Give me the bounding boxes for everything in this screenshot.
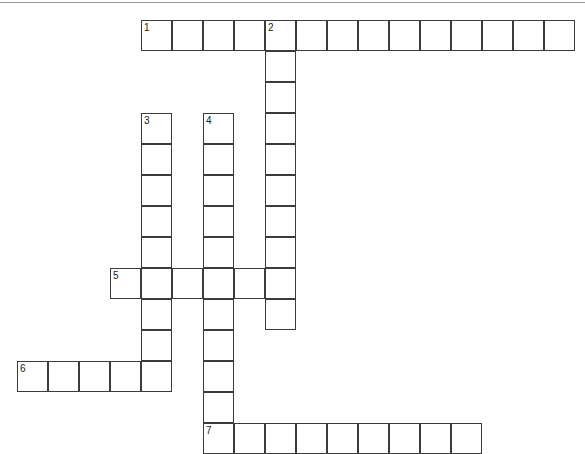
crossword-cell[interactable]	[17, 361, 48, 392]
crossword-cell[interactable]	[358, 423, 389, 454]
crossword-cell[interactable]	[296, 423, 327, 454]
crossword-cell[interactable]	[389, 20, 420, 51]
crossword-cell[interactable]	[451, 423, 482, 454]
crossword-cell[interactable]	[141, 206, 172, 237]
crossword-cell[interactable]	[141, 144, 172, 175]
crossword-cell[interactable]	[327, 20, 358, 51]
crossword-cell[interactable]	[141, 361, 172, 392]
crossword-cell[interactable]	[482, 20, 513, 51]
crossword-cell[interactable]	[203, 299, 234, 330]
crossword-cell[interactable]	[141, 299, 172, 330]
crossword-cell[interactable]	[265, 82, 296, 113]
crossword-cell[interactable]	[296, 20, 327, 51]
crossword-cell[interactable]	[203, 330, 234, 361]
crossword-cell[interactable]	[234, 423, 265, 454]
crossword-cell[interactable]	[48, 361, 79, 392]
crossword-cell[interactable]	[110, 361, 141, 392]
crossword-cell[interactable]	[79, 361, 110, 392]
crossword-cell[interactable]	[358, 20, 389, 51]
crossword-cell[interactable]	[389, 423, 420, 454]
crossword-cell[interactable]	[203, 113, 234, 144]
crossword-cell[interactable]	[110, 268, 141, 299]
crossword-cell[interactable]	[172, 20, 203, 51]
crossword-cell[interactable]	[265, 144, 296, 175]
crossword-cell[interactable]	[265, 268, 296, 299]
crossword-cell[interactable]	[265, 20, 296, 51]
crossword-cell[interactable]	[141, 237, 172, 268]
crossword-cell[interactable]	[203, 268, 234, 299]
crossword-cell[interactable]	[203, 392, 234, 423]
crossword-cell[interactable]	[172, 268, 203, 299]
crossword-cell[interactable]	[265, 237, 296, 268]
crossword-cell[interactable]	[203, 20, 234, 51]
crossword-cell[interactable]	[203, 206, 234, 237]
crossword-cell[interactable]	[327, 423, 358, 454]
crossword-cell[interactable]	[265, 113, 296, 144]
crossword-cell[interactable]	[265, 175, 296, 206]
crossword-cell[interactable]	[451, 20, 482, 51]
crossword-cell[interactable]	[141, 20, 172, 51]
crossword-cell[interactable]	[420, 423, 451, 454]
crossword-cell[interactable]	[141, 330, 172, 361]
crossword-cell[interactable]	[234, 268, 265, 299]
crossword-cell[interactable]	[265, 206, 296, 237]
crossword-cell[interactable]	[420, 20, 451, 51]
crossword-cell[interactable]	[513, 20, 544, 51]
crossword-cell[interactable]	[203, 237, 234, 268]
crossword-cell[interactable]	[265, 423, 296, 454]
crossword-cell[interactable]	[141, 268, 172, 299]
crossword-cell[interactable]	[203, 144, 234, 175]
crossword-cell[interactable]	[265, 51, 296, 82]
crossword-cell[interactable]	[265, 299, 296, 330]
crossword-cell[interactable]	[203, 361, 234, 392]
crossword-cell[interactable]	[141, 113, 172, 144]
crossword-cell[interactable]	[203, 175, 234, 206]
crossword-cell[interactable]	[141, 175, 172, 206]
crossword-cell[interactable]	[234, 20, 265, 51]
crossword-cell[interactable]	[203, 423, 234, 454]
crossword-cell[interactable]	[544, 20, 575, 51]
